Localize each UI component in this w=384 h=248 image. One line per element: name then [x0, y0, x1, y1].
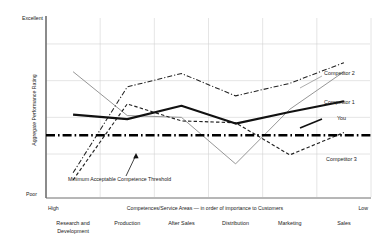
category-label-1: Production — [114, 220, 140, 226]
x-axis-title: Competences/Service Areas — in order of … — [127, 205, 284, 211]
x-axis-right-label: Low — [358, 205, 368, 211]
category-label-0: Research and — [56, 220, 90, 226]
y-axis-top-label: Excellent — [22, 15, 44, 21]
category-label-3: Distribution — [222, 220, 249, 226]
legend-label-competitor-2[interactable]: Competitor 2 — [324, 70, 355, 76]
category-label-2: After Sales — [168, 220, 195, 226]
x-axis-left-label: High — [48, 205, 59, 211]
legend-label-you[interactable]: You — [337, 115, 346, 121]
category-label-5: Sales — [337, 220, 351, 226]
competence-line-chart: Minimum Acceptable Competence Threshold … — [0, 0, 384, 248]
category-label-4: Marketing — [278, 220, 302, 226]
category-label-0-line2: Development — [57, 228, 89, 234]
y-axis-bottom-label: Poor — [26, 191, 37, 197]
legend-label-competitor-1[interactable]: Competitor 1 — [324, 99, 355, 105]
legend-label-competitor-3[interactable]: Competitor 3 — [326, 156, 357, 162]
threshold-label: Minimum Acceptable Competence Threshold — [68, 176, 171, 182]
y-axis-title: Aggregate Performance Rating — [31, 74, 37, 146]
chart-container: Minimum Acceptable Competence Threshold … — [0, 0, 384, 248]
